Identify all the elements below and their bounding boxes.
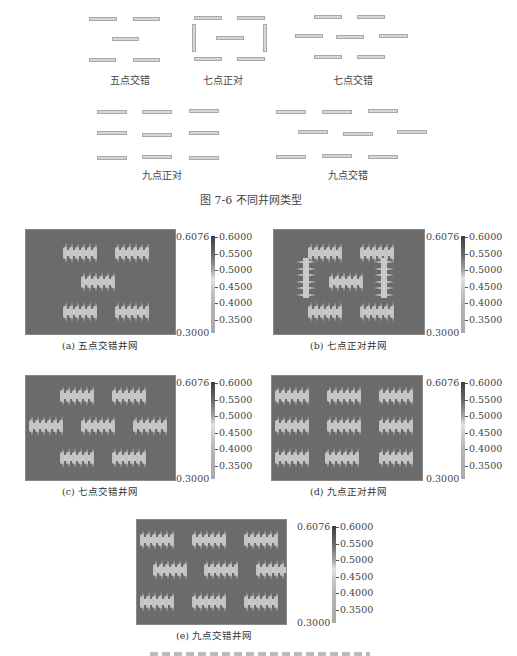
colorbar-tick-label: 0.5500 [469,248,502,259]
well-bar [89,58,116,62]
well-bar [189,156,219,160]
well-bar [263,24,267,52]
saturation-heatmap [271,375,423,481]
well-saturation-zone [112,386,146,406]
well-bar [276,110,306,114]
well-saturation-zone [60,448,94,468]
well-bar [276,155,306,159]
subplot-caption: (e) 九点交错井网 [176,628,252,642]
colorbar-tick-label: 0.3500 [340,604,373,615]
well-saturation-zone [275,416,309,436]
colorbar [211,382,215,479]
colorbar-tick-label: 0.5000 [219,264,252,275]
colorbar-tick-label: 0.5000 [219,410,252,421]
well-saturation-zone [275,448,309,468]
well-saturation-zone [81,416,115,436]
well-bar [397,130,427,134]
well-bar [189,109,219,113]
well-saturation-zone [140,530,174,550]
well-saturation-zone [308,302,341,322]
well-bar [142,155,172,159]
well-saturation-zone [256,560,287,580]
well-saturation-zone [244,530,278,550]
well-saturation-zone [275,386,309,406]
colorbar-tick-label: 0.3500 [469,314,502,325]
well-bar [314,55,342,59]
well-saturation-zone [329,272,362,292]
saturation-heatmap [25,375,176,481]
well-bar [194,16,222,20]
well-bar [97,110,127,114]
well-bar [357,15,385,19]
well-bar [322,110,352,114]
well-saturation-zone [140,592,174,612]
colorbar [461,382,465,479]
colorbar-tick-label: 0.4500 [219,427,252,438]
well-saturation-zone [63,302,97,322]
colorbar-tick-label: 0.6000 [469,231,502,242]
colorbar-max-label: 0.6076 [297,521,330,532]
well-saturation-zone [63,243,97,263]
colorbar-tick-label: 0.4500 [469,427,502,438]
well-bar [192,24,196,52]
well-bar [237,57,265,61]
colorbar-tick-label: 0.3500 [469,460,502,471]
well-bar [189,131,219,135]
schematic-label: 七点正对 [203,72,243,87]
colorbar-max-label: 0.6076 [426,231,459,242]
well-saturation-zone [379,448,413,468]
colorbar-tick-label: 0.3500 [219,314,252,325]
well-bar [216,36,244,40]
well-bar [142,110,172,114]
well-saturation-zone [204,560,238,580]
colorbar-tick-label: 0.5500 [219,394,252,405]
colorbar-tick-label: 0.5500 [219,248,252,259]
well-bar [368,109,398,113]
saturation-heatmap [136,519,287,625]
subplot-caption: (b) 七点正对井网 [310,338,387,352]
colorbar-min-label: 0.3000 [297,617,330,628]
colorbar-tick-label: 0.5000 [340,554,373,565]
colorbar-tick-label: 0.5500 [469,394,502,405]
well-saturation-zone [153,560,187,580]
well-bar [112,37,139,41]
colorbar-tick-label: 0.6000 [469,377,502,388]
well-saturation-zone [115,302,149,322]
well-bar [298,130,328,134]
well-bar [357,55,385,59]
colorbar-max-label: 0.6076 [426,377,459,388]
colorbar-tick-label: 0.4000 [219,443,252,454]
well-saturation-zone [244,592,278,612]
well-bar [97,131,127,135]
well-bar [343,132,373,136]
colorbar-tick-label: 0.6000 [340,521,373,532]
well-saturation-zone [374,258,394,298]
colorbar-tick-label: 0.4000 [469,297,502,308]
saturation-heatmap [25,229,176,335]
well-saturation-zone [360,302,393,322]
well-bar [89,17,117,21]
saturation-heatmap [273,229,425,335]
subplot-caption: (a) 五点交错井网 [62,338,138,352]
colorbar-tick-label: 0.4000 [340,587,373,598]
subplot-caption: (c) 七点交错井网 [62,484,138,498]
colorbar-tick-label: 0.4000 [469,443,502,454]
colorbar [461,236,465,333]
well-saturation-zone [327,386,361,406]
colorbar-max-label: 0.6076 [176,231,209,242]
well-saturation-zone [60,386,94,406]
colorbar-min-label: 0.3000 [176,327,209,338]
well-bar [237,16,265,20]
schematic-label: 九点正对 [142,167,182,182]
colorbar-min-label: 0.3000 [176,473,209,484]
well-bar [133,58,160,62]
well-saturation-zone [325,448,359,468]
well-bar [295,34,323,38]
schematic-label: 九点交错 [328,167,368,182]
colorbar-tick-label: 0.4000 [219,297,252,308]
well-bar [336,35,364,39]
well-saturation-zone [29,416,63,436]
colorbar-tick-label: 0.5500 [340,538,373,549]
well-saturation-zone [192,530,226,550]
well-saturation-zone [115,243,149,263]
